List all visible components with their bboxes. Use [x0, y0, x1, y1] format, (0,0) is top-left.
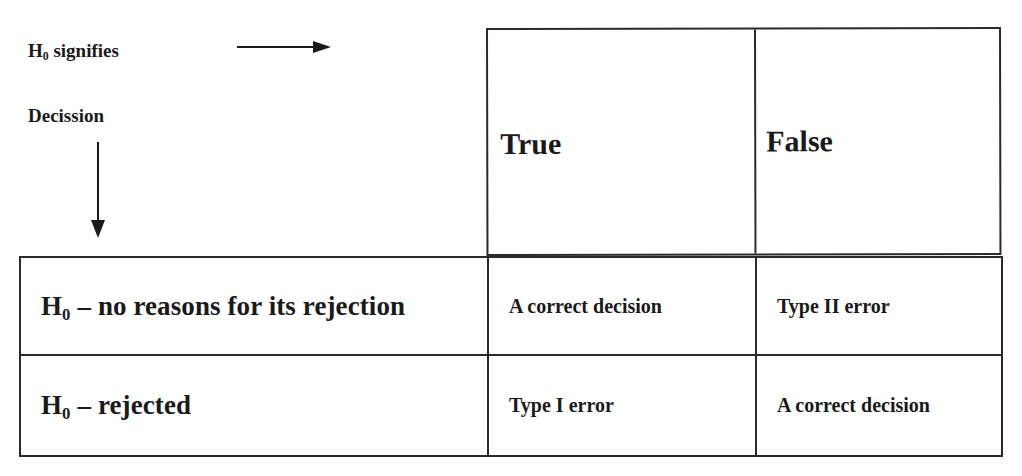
- decision-label: Decission: [28, 106, 104, 125]
- h0-symbol: H: [28, 40, 43, 61]
- table-cell-true-not-rejected: A correct decision: [489, 258, 757, 356]
- cell-value: Type I error: [499, 394, 614, 417]
- arrow-right-icon: [237, 41, 331, 53]
- h0-signifies-text: signifies: [49, 40, 119, 61]
- row-header-text: H0 – no reasons for its rejection: [31, 291, 405, 322]
- row-header-not-rejected: H0 – no reasons for its rejection: [21, 258, 489, 356]
- row-header-text: H0 – rejected: [31, 390, 191, 421]
- row-header-rejected: H0 – rejected: [21, 356, 489, 455]
- h0-signifies-label: H0 signifies: [28, 41, 119, 60]
- table-cell-false-rejected: A correct decision: [757, 356, 1001, 455]
- table-cell-true-rejected: Type I error: [489, 356, 757, 455]
- column-header-box: True False: [486, 27, 1001, 256]
- cell-value: Type II error: [767, 295, 890, 318]
- table-cell-false-not-rejected: Type II error: [757, 258, 1001, 356]
- arrow-down-icon: [91, 142, 105, 238]
- column-header-true: True: [488, 29, 756, 254]
- cell-value: A correct decision: [767, 394, 930, 417]
- decision-table: H0 – no reasons for its rejection A corr…: [19, 256, 1003, 457]
- cell-value: A correct decision: [499, 295, 662, 318]
- column-header-false: False: [756, 29, 999, 254]
